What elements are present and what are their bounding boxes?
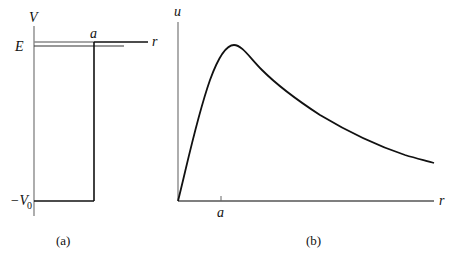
panel-b: u r a (b)	[174, 4, 445, 248]
figure-canvas: V r E a −V 0 (a) u r a (b)	[0, 0, 458, 264]
panel-a: V r E a −V 0 (a)	[10, 10, 158, 248]
wavefunction-curve	[178, 45, 434, 201]
caption-b: (b)	[306, 233, 321, 248]
well-width-label: a	[90, 26, 97, 41]
well-depth-subscript: 0	[27, 200, 32, 211]
u-axis-label: u	[174, 4, 181, 19]
tick-a-label: a	[217, 205, 224, 220]
v-axis-label: V	[29, 10, 39, 25]
caption-a: (a)	[56, 233, 70, 248]
r-axis-label-a: r	[152, 34, 158, 49]
r-axis-label-b: r	[439, 193, 445, 208]
energy-label: E	[14, 39, 24, 54]
